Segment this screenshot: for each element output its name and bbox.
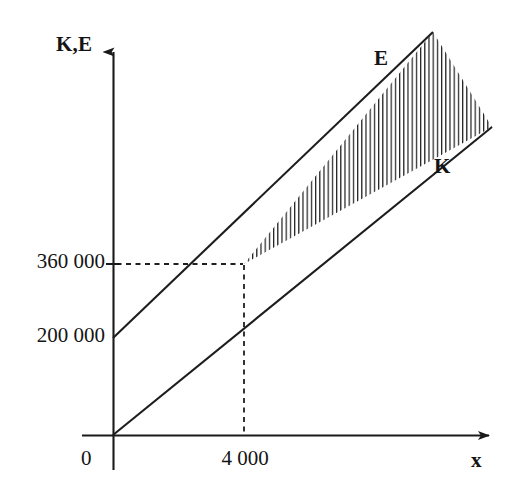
- y-tick-label-200000: 200 000: [0, 325, 105, 346]
- x-axis-label: x: [471, 450, 482, 471]
- chart-plot-area: [0, 0, 523, 492]
- x-tick-label-4000: 4 000: [196, 448, 294, 469]
- y-axis-label: K,E: [56, 34, 92, 55]
- profit-wedge-hatching: [244, 32, 492, 264]
- origin-tick-label: 0: [81, 448, 92, 469]
- curve-label-K: K: [434, 156, 450, 177]
- breakeven-guides: [107, 264, 244, 434]
- curve-label-E: E: [374, 48, 388, 69]
- y-tick-label-360000: 360 000: [0, 251, 105, 272]
- chart-figure: K,E x 0 4 000 360 000 200 000 E K: [0, 0, 523, 492]
